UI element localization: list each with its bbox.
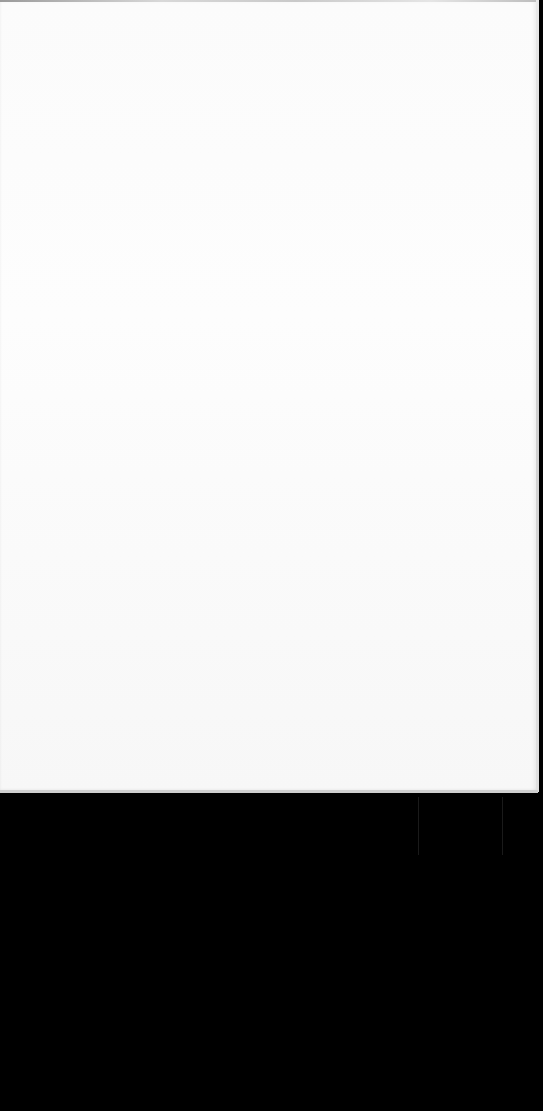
photo-scene: Blank white sheet of paper photographed … (0, 0, 543, 1111)
paper-right-edge (536, 0, 539, 792)
background-shadow-line (502, 797, 503, 855)
background-shadow-line (418, 797, 419, 855)
paper-bottom-edge (0, 790, 538, 793)
blank-paper-sheet (0, 0, 538, 792)
paper-top-edge (0, 0, 538, 2)
